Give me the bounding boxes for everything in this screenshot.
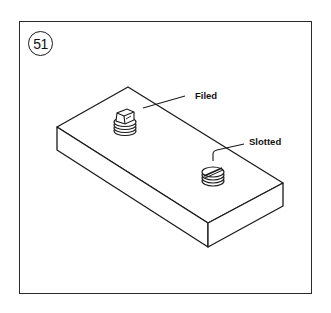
filed-screw-icon bbox=[114, 109, 136, 136]
slotted-label: Slotted bbox=[249, 136, 281, 147]
block-drawing bbox=[0, 0, 331, 313]
diagram-figure: 51 bbox=[0, 0, 331, 313]
filed-label: Filed bbox=[195, 90, 217, 101]
slotted-screw-icon bbox=[202, 167, 224, 186]
